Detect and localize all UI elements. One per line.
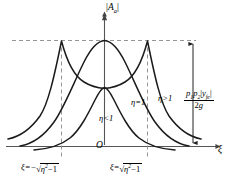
tick-right-sqrt: √η2−1 [119, 163, 142, 173]
tick-label-right-peak: ξ=√η2−1 [110, 163, 142, 173]
origin-label: O [96, 141, 103, 151]
y-axis-label-bar-close: | [117, 2, 119, 12]
numerator-bar-close: | [210, 88, 212, 98]
tick-left-radicand: η2−1 [40, 163, 59, 173]
curve-label-eta-greater-than-1: η>1 [158, 94, 172, 103]
tick-left-sqrt: √η2−1 [36, 163, 59, 173]
amplitude-denominator: 2g [184, 101, 214, 110]
curve-label-eta-equals-1: η=1 [131, 98, 145, 107]
tick-right-lead: ξ= [110, 162, 119, 172]
resonance-amplitude-figure: |Aa| ξ O η<1 η=1 η>1 ξ=−√η2−1 ξ=√η2−1 p1… [0, 0, 231, 188]
denominator-variable: g [199, 100, 203, 110]
tick-right-radicand: η2−1 [123, 163, 142, 173]
tick-label-left-peak: ξ=−√η2−1 [21, 163, 59, 173]
tick-left-minus-one: −1 [48, 164, 57, 174]
curve-label-eta-less-than-1: η<1 [99, 114, 113, 123]
x-axis-label: ξ [218, 145, 222, 155]
amplitude-formula: p1p2|yfe| 2g [184, 89, 214, 110]
tick-left-lead: ξ=− [21, 162, 36, 172]
y-axis-arrowhead [102, 14, 107, 21]
axis-group [6, 14, 216, 147]
tick-right-minus-one: −1 [131, 164, 140, 174]
y-axis-label: |Aa| [106, 3, 119, 14]
amplitude-fraction: p1p2|yfe| 2g [184, 89, 214, 110]
